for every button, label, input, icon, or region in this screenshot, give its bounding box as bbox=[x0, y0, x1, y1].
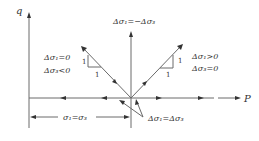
dimension-arrow-right bbox=[124, 115, 130, 119]
left-arrow-2 bbox=[101, 96, 107, 100]
up-left-path bbox=[84, 49, 131, 98]
q-axis-arrowhead bbox=[27, 12, 31, 18]
vertical-path-label: Δσ₁=−Δσ₃ bbox=[112, 17, 155, 26]
left-arrow-1 bbox=[60, 96, 66, 100]
up-left-label-line1: Δσ₁=0 bbox=[43, 53, 70, 62]
p-axis-label: P bbox=[243, 93, 251, 104]
up-left-slope-rise: 1 bbox=[82, 58, 86, 66]
up-right-slope-rise: 1 bbox=[178, 57, 182, 65]
pointer-arrowhead-1 bbox=[119, 100, 125, 105]
horizontal-path-label: Δσ₁=Δσ₃ bbox=[147, 114, 184, 123]
up-left-slope-run: 1 bbox=[95, 71, 99, 79]
dimension-arrow-left bbox=[30, 115, 36, 119]
up-right-label-line2: Δσ₃=0 bbox=[191, 64, 218, 73]
up-right-path bbox=[131, 47, 180, 98]
pointer-arrowhead-2 bbox=[135, 99, 139, 105]
p-axis-arrowhead bbox=[235, 96, 241, 100]
up-left-label-line2: Δσ₃<0 bbox=[43, 66, 70, 75]
stress-path-diagram: q P Δσ₁=−Δσ₃ 1 1 Δσ₁=0 Δσ₃<0 1 1 Δσ₁>0 Δ… bbox=[0, 0, 259, 141]
up-right-slope-run: 1 bbox=[166, 71, 170, 79]
up-right-label-line1: Δσ₁>0 bbox=[191, 52, 218, 61]
right-arrow-1 bbox=[156, 96, 162, 100]
right-arrow-2 bbox=[198, 96, 204, 100]
dimension-label: σ₁=σ₃ bbox=[63, 113, 87, 122]
vertical-path-arrowhead bbox=[129, 31, 133, 37]
q-axis-label: q bbox=[16, 5, 22, 16]
up-left-mid-arrow bbox=[112, 79, 117, 84]
